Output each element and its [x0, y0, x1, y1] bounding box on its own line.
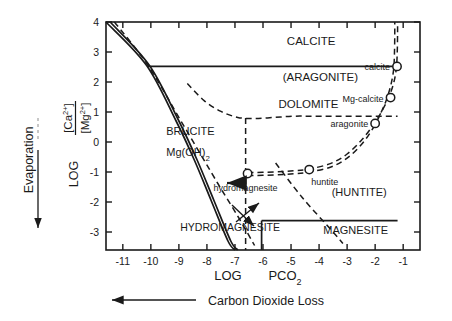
point-label-huntite: huntite: [311, 177, 338, 187]
path-point-Mgcalcite: [386, 93, 394, 101]
y-tick-label: 0: [93, 136, 99, 148]
point-label-hydromagnesite: hydromagnesite: [214, 183, 278, 193]
x-tick-label: -9: [174, 255, 183, 267]
x-tick-label: -7: [230, 255, 239, 267]
x-tick-label: -5: [286, 255, 295, 267]
y-tick-label: -2: [90, 196, 99, 208]
x-tick-label: -1: [399, 255, 408, 267]
path-point-aragonite: [371, 119, 379, 127]
y-tick-label: 2: [93, 76, 99, 88]
y-axis-label-log: LOG: [67, 161, 81, 187]
phase-diagram: -11-10-9-8-7-6-5-4-3-2-1 43210-1-2-3 CAL…: [0, 0, 452, 321]
field-label-brucite: BRUCITE: [166, 125, 214, 137]
x-axis-label-log: LOG: [214, 268, 241, 283]
x-tick-label: -10: [143, 255, 158, 267]
field-label-aragonite: (ARAGONITE): [283, 71, 359, 83]
path-point-huntite: [305, 165, 313, 173]
x-tick-label: -2: [370, 255, 379, 267]
field-label-hydromagnesite: HYDROMAGNESITE: [180, 221, 280, 233]
field-label-magnesite: MAGNESITE: [323, 224, 388, 236]
co2-loss-label: Carbon Dioxide Loss: [208, 294, 324, 308]
x-tick-label: -8: [202, 255, 211, 267]
evaporation-label: Evaporation: [22, 127, 36, 194]
point-label-aragonite: aragonite: [331, 119, 369, 129]
y-tick-label: 3: [93, 46, 99, 58]
y-tick-label: 4: [93, 16, 99, 28]
x-tick-label: -4: [314, 255, 323, 267]
point-label-calcite: calcite: [364, 62, 390, 72]
x-tick-label: -11: [116, 255, 131, 267]
y-tick-label: -1: [90, 166, 99, 178]
field-label-dolomite: DOLOMITE: [278, 98, 338, 110]
path-point-calcite: [393, 62, 401, 70]
field-label-huntite: (HUNTITE): [332, 186, 387, 198]
field-label-calcite: CALCITE: [287, 35, 336, 47]
y-tick-label: -3: [90, 226, 99, 238]
path-point-hydromagnesite: [243, 169, 251, 177]
point-label-Mgcalcite: Mg-calcite: [343, 94, 384, 104]
x-tick-label: -3: [342, 255, 351, 267]
y-tick-label: 1: [93, 106, 99, 118]
x-tick-label: -6: [258, 255, 267, 267]
